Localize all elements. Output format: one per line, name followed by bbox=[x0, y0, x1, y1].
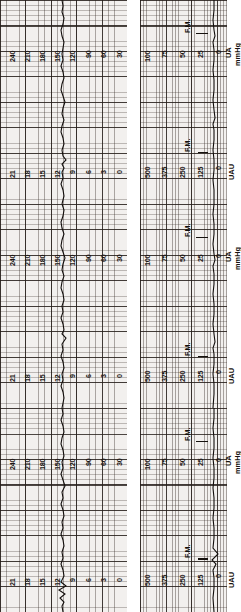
fetal-heart-rate-channel: 240 210 180 150 120 90 60 30 21 18 15 12… bbox=[0, 204, 127, 408]
fetal-heart-rate-channel: 240 210 180 150 120 90 60 30 21 18 15 12… bbox=[0, 0, 127, 204]
uterine-activity-channel: 100 75 50 25 0 UA mmHg F.M. 500 375 250 … bbox=[140, 408, 241, 612]
fetal-heart-rate-channel: 240 210 180 150 120 90 60 30 21 18 15 12… bbox=[0, 408, 127, 612]
ua-trace bbox=[140, 408, 241, 612]
ctg-strip-sheet: 240 210 180 150 120 90 60 30 21 18 15 12… bbox=[0, 0, 241, 612]
uterine-activity-channel: 100 75 50 25 0 UA mmHg F.M. 500 375 250 … bbox=[140, 0, 241, 204]
ctg-block: 240 210 180 150 120 90 60 30 21 18 15 12… bbox=[0, 204, 241, 408]
ctg-block: 240 210 180 150 120 90 60 30 21 18 15 12… bbox=[0, 408, 241, 612]
ua-trace bbox=[140, 204, 241, 408]
ua-trace bbox=[140, 0, 241, 204]
ctg-block: 240 210 180 150 120 90 60 30 21 18 15 12… bbox=[0, 0, 241, 204]
fhr-trace bbox=[0, 0, 127, 204]
uterine-activity-channel: 100 75 50 25 0 UA mmHg F.M. 500 375 250 … bbox=[140, 204, 241, 408]
fhr-trace bbox=[0, 408, 127, 612]
fhr-trace bbox=[0, 204, 127, 408]
